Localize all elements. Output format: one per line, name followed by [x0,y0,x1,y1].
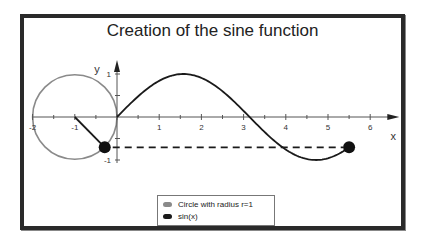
x-tick-label: 2 [199,123,204,132]
x-tick-label: 6 [368,123,373,132]
x-axis-arrow-icon [387,114,399,120]
y-tick-label: -1 [104,156,112,165]
radius-line [75,117,105,147]
x-tick-label: 3 [241,123,246,132]
legend-item-circle: Circle with radius r=1 [163,198,253,210]
circle-point-marker [99,141,111,153]
x-tick-label: -1 [71,123,79,132]
y-tick-label: 1 [107,70,112,79]
legend: Circle with radius r=1 sin(x) [157,195,275,226]
y-axis-label: y [94,63,100,75]
legend-item-sin: sin(x) [163,210,198,222]
legend-swatch-sin [163,214,172,219]
legend-swatch-circle [163,202,172,207]
x-axis-label: x [391,130,397,142]
y-axis-arrow-icon [114,60,120,72]
x-tick-label: 4 [284,123,289,132]
x-tick-label: 5 [326,123,331,132]
x-tick-label: -2 [29,123,37,132]
chart-frame: Creation of the sine function -2-1123456… [20,14,405,230]
curve-point-marker [343,141,355,153]
x-tick-label: 1 [157,123,162,132]
